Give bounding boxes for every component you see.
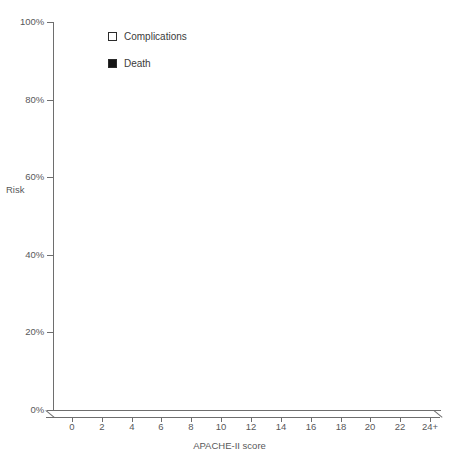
chart-figure: Complications Death Risk APACHE-II score… [0, 0, 459, 466]
plot-area [0, 0, 459, 466]
